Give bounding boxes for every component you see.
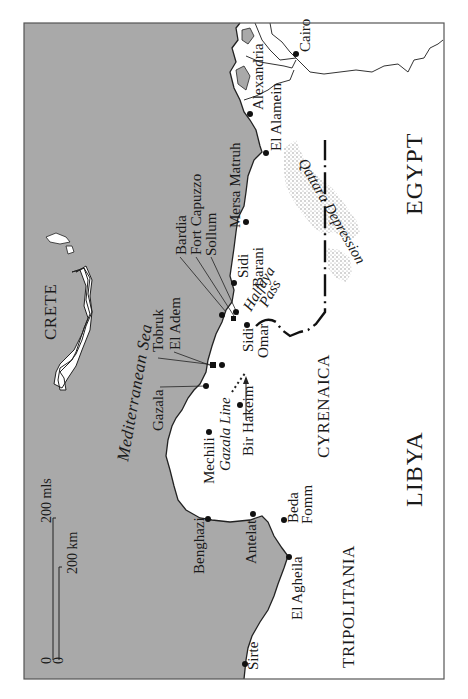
- scale-200-mls: 200 mls: [39, 478, 54, 523]
- label-gazala-line: Gazala Line: [217, 397, 233, 471]
- fort-capuzzo-marker: [231, 316, 236, 321]
- tobruk-marker: [210, 362, 216, 368]
- mechili-marker: [206, 429, 212, 435]
- sidi-omar-marker: [244, 322, 250, 328]
- scale-zero-km: 0: [51, 657, 66, 664]
- gazala-marker: [203, 383, 209, 389]
- antelat-marker: [250, 511, 256, 517]
- label-antelat: Antelat: [243, 519, 259, 564]
- alexandria-marker: [247, 111, 253, 117]
- label-libya: LIBYA: [401, 431, 427, 507]
- label-crete: CRETE: [41, 284, 60, 340]
- map-canvas: Cairo Alexandria El Alamein Mersa Matruh…: [0, 0, 468, 699]
- label-el-alamein: El Alamein: [268, 83, 284, 151]
- el-adem-marker: [219, 362, 225, 368]
- label-el-agheila: El Agheila: [289, 556, 305, 620]
- label-mersa-matruh: Mersa Matruh: [227, 142, 243, 228]
- label-gazala: Gazala: [150, 389, 166, 431]
- label-cyrenaica: CYRENAICA: [314, 354, 333, 458]
- label-tripolitania: TRIPOLITANIA: [339, 545, 358, 668]
- label-alexandria: Alexandria: [250, 43, 266, 110]
- sidi-barani-marker: [231, 280, 237, 286]
- bardia-marker: [219, 312, 225, 318]
- label-sollum: Sollum: [203, 212, 219, 256]
- label-cairo: Cairo: [297, 19, 313, 52]
- label-bardia: Bardia: [173, 215, 189, 255]
- scale-200-km: 200 km: [65, 532, 80, 575]
- label-egypt: EGYPT: [401, 133, 427, 215]
- label-benghazi: Benghazi: [191, 517, 207, 574]
- label-sidi-barani-1: Sidi: [235, 254, 251, 278]
- label-sirte: Sirte: [245, 641, 261, 670]
- label-el-adem: El Adem: [167, 297, 183, 350]
- sollum-marker: [233, 309, 239, 315]
- label-mechili: Mechili: [201, 437, 217, 484]
- label-sidi-omar-2: Omar: [255, 324, 271, 358]
- label-bir-hakeim: Bir Hakeim: [240, 385, 256, 456]
- label-sidi-omar-1: Sidi: [240, 328, 256, 352]
- label-fort-capuzzo: Fort Capuzzo: [188, 174, 204, 255]
- label-fomm: Fomm: [299, 484, 315, 524]
- mersa-matruh-marker: [243, 219, 249, 225]
